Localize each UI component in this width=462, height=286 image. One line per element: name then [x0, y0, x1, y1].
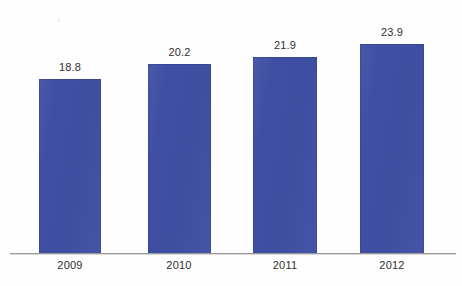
category-label-2010: 2010 — [139, 258, 219, 272]
bar-2011[interactable] — [253, 57, 317, 254]
category-label-2011: 2011 — [245, 258, 325, 272]
bar-group-2009: 18.8 — [39, 1, 101, 254]
bar-value-label: 23.9 — [360, 26, 424, 38]
bar-value-label: 21.9 — [253, 39, 317, 51]
bar-2012[interactable] — [360, 44, 424, 254]
bar-chart: 18.8 20.2 21.9 23.9 2009 2010 2011 2012 — [0, 0, 462, 286]
bar-group-2010: 20.2 — [148, 1, 211, 254]
bar-value-label: 20.2 — [148, 46, 211, 58]
bar-2010[interactable] — [148, 64, 211, 254]
bar-group-2012: 23.9 — [360, 1, 424, 254]
category-label-2012: 2012 — [352, 258, 432, 272]
bar-group-2011: 21.9 — [253, 1, 317, 254]
x-axis-category-labels: 2009 2010 2011 2012 — [0, 258, 462, 278]
x-axis-baseline — [10, 253, 456, 255]
bar-value-label: 18.8 — [39, 61, 101, 73]
plot-area: 18.8 20.2 21.9 23.9 — [0, 0, 462, 254]
bar-2009[interactable] — [39, 79, 101, 254]
category-label-2009: 2009 — [30, 258, 110, 272]
